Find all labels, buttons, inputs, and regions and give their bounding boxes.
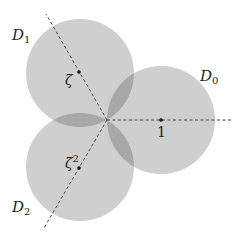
point-zeta [77, 70, 81, 74]
zeta-exponent: 2 [73, 153, 79, 164]
d2-base: D [11, 198, 24, 216]
label-1: 1 [157, 124, 166, 140]
point-1 [159, 118, 163, 122]
d2-sub: 2 [24, 206, 30, 217]
d0-sub: 0 [212, 75, 218, 86]
d1-base: D [11, 26, 24, 44]
label-d1: D1 [11, 26, 30, 45]
label-d0: D0 [199, 67, 218, 86]
point-zeta-squared [77, 166, 81, 170]
d0-base: D [199, 67, 212, 85]
three-disks-diagram: 1 ζ ζ2 D0 D1 D2 [0, 0, 238, 240]
d1-sub: 1 [24, 34, 30, 45]
label-d2: D2 [11, 198, 30, 217]
